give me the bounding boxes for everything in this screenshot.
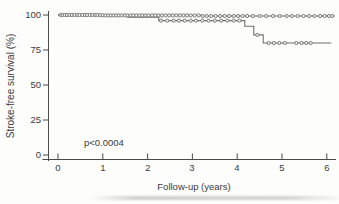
- censor-mark-icon: [189, 14, 192, 17]
- censor-mark-icon: [265, 14, 268, 17]
- censor-mark-icon: [285, 14, 288, 17]
- censor-mark-icon: [194, 19, 197, 22]
- censor-mark-icon: [120, 14, 123, 17]
- x-tick-label-6: 6: [317, 163, 337, 173]
- censor-mark-icon: [319, 14, 322, 17]
- censor-mark-icon: [177, 19, 180, 22]
- censor-mark-icon: [213, 19, 216, 22]
- chart-plot-area: [0, 0, 339, 204]
- censor-mark-icon: [296, 14, 299, 17]
- censor-mark-icon: [201, 19, 204, 22]
- censor-mark-icon: [172, 19, 175, 22]
- censor-mark-icon: [241, 14, 244, 17]
- censor-mark-icon: [201, 14, 204, 17]
- censor-mark-icon: [183, 19, 186, 22]
- censor-mark-icon: [171, 14, 174, 17]
- censor-mark-icon: [185, 14, 188, 17]
- censor-mark-icon: [309, 41, 312, 44]
- censor-mark-icon: [126, 14, 129, 17]
- censor-mark-icon: [228, 14, 231, 17]
- y-tick-label-50: 50: [8, 80, 41, 90]
- censor-mark-icon: [283, 41, 286, 44]
- y-tick-label-25: 25: [8, 115, 41, 125]
- censor-mark-icon: [300, 41, 303, 44]
- censor-mark-icon: [220, 19, 223, 22]
- censor-mark-icon: [290, 14, 293, 17]
- censor-mark-icon: [331, 14, 334, 17]
- censor-mark-icon: [223, 14, 226, 17]
- censor-mark-icon: [313, 14, 316, 17]
- x-axis-title: Follow-up (years): [134, 181, 254, 193]
- scan-artifact: [90, 196, 339, 200]
- p-value-annotation: p<0.0004: [84, 137, 124, 148]
- censor-mark-icon: [278, 14, 281, 17]
- censor-mark-icon: [246, 14, 249, 17]
- x-tick-label-3: 3: [182, 163, 202, 173]
- censor-mark-icon: [302, 14, 305, 17]
- y-tick-label-100: 100: [8, 10, 41, 20]
- censor-mark-icon: [238, 19, 241, 22]
- censor-mark-icon: [307, 14, 310, 17]
- censor-mark-icon: [219, 14, 222, 17]
- censor-mark-icon: [210, 14, 213, 17]
- censor-mark-icon: [226, 19, 229, 22]
- censor-marks-upper-group: [59, 13, 334, 17]
- censor-mark-icon: [197, 14, 200, 17]
- censor-mark-icon: [305, 41, 308, 44]
- censor-marks-lower-group: [159, 19, 312, 45]
- km-chart-svg: [0, 0, 339, 204]
- y-tick-label-0: 0: [8, 150, 41, 160]
- censor-mark-icon: [258, 14, 261, 17]
- censor-mark-icon: [193, 14, 196, 17]
- censor-mark-icon: [272, 41, 275, 44]
- censor-mark-icon: [256, 33, 259, 36]
- y-tick-label-75: 75: [8, 45, 41, 55]
- censor-mark-icon: [207, 19, 210, 22]
- censor-mark-icon: [147, 14, 150, 17]
- censor-mark-icon: [232, 14, 235, 17]
- censor-mark-icon: [157, 14, 160, 17]
- censor-mark-icon: [237, 14, 240, 17]
- censor-mark-icon: [251, 14, 254, 17]
- censor-mark-icon: [295, 41, 298, 44]
- y-axis-ticks: [43, 15, 49, 155]
- censor-mark-icon: [189, 19, 192, 22]
- censor-mark-icon: [232, 19, 235, 22]
- x-axis-ticks: [58, 154, 327, 160]
- survival-chart-figure: Stroke-free survival (%) Follow-up (year…: [0, 0, 339, 204]
- x-tick-label-1: 1: [93, 163, 113, 173]
- x-tick-label-4: 4: [227, 163, 247, 173]
- censor-mark-icon: [323, 14, 326, 17]
- censor-mark-icon: [182, 14, 185, 17]
- censor-mark-icon: [166, 19, 169, 22]
- censor-mark-icon: [214, 14, 217, 17]
- censor-mark-icon: [160, 14, 163, 17]
- censor-mark-icon: [159, 19, 162, 22]
- censor-mark-icon: [168, 14, 171, 17]
- censor-mark-icon: [141, 14, 144, 17]
- censor-mark-icon: [271, 14, 274, 17]
- x-tick-label-2: 2: [138, 163, 158, 173]
- x-tick-label-5: 5: [272, 163, 292, 173]
- censor-mark-icon: [175, 14, 178, 17]
- censor-mark-icon: [267, 41, 270, 44]
- censor-mark-icon: [327, 14, 330, 17]
- censor-mark-icon: [164, 14, 167, 17]
- censor-mark-icon: [205, 14, 208, 17]
- censor-mark-icon: [154, 14, 157, 17]
- censor-mark-icon: [178, 14, 181, 17]
- x-tick-label-0: 0: [48, 163, 68, 173]
- censor-mark-icon: [278, 41, 281, 44]
